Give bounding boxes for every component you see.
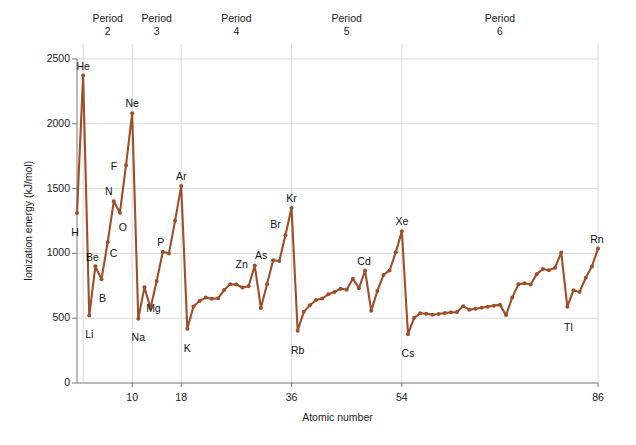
x-tick-label-86: 86 — [578, 391, 618, 403]
data-point-27 — [234, 283, 238, 287]
data-point-29 — [247, 284, 251, 288]
data-point-7 — [112, 199, 116, 203]
data-point-73 — [516, 282, 520, 286]
data-point-9 — [124, 163, 128, 167]
data-point-6 — [106, 240, 110, 244]
data-point-18 — [179, 184, 183, 188]
data-point-67 — [480, 306, 484, 310]
data-point-30 — [253, 264, 257, 268]
data-point-4 — [93, 264, 97, 268]
y-tick-label-1500: 1500 — [28, 182, 70, 194]
tick-marks — [72, 59, 598, 387]
data-point-1 — [75, 211, 79, 215]
data-point-19 — [185, 327, 189, 331]
data-point-16 — [167, 251, 171, 255]
data-point-47 — [357, 286, 361, 290]
x-tick-label-18: 18 — [161, 391, 201, 403]
annotation-Xe: Xe — [394, 215, 410, 227]
data-point-2 — [81, 74, 85, 78]
plot-area — [0, 0, 636, 445]
data-point-74 — [522, 281, 526, 285]
data-point-61 — [443, 311, 447, 315]
data-point-83 — [578, 290, 582, 294]
annotation-O: O — [115, 221, 131, 233]
data-point-31 — [259, 306, 263, 310]
data-point-65 — [467, 308, 471, 312]
data-point-76 — [535, 272, 539, 276]
data-point-51 — [381, 273, 385, 277]
annotation-As: As — [253, 249, 269, 261]
annotation-B: B — [95, 292, 111, 304]
data-point-64 — [461, 304, 465, 308]
data-point-44 — [339, 287, 343, 291]
x-axis-label: Atomic number — [0, 411, 636, 423]
annotation-Mg: Mg — [145, 302, 161, 314]
data-point-26 — [228, 282, 232, 286]
data-point-32 — [265, 282, 269, 286]
annotation-C: C — [106, 247, 122, 259]
data-point-5 — [100, 277, 104, 281]
data-point-36 — [290, 206, 294, 210]
data-point-14 — [155, 279, 159, 283]
data-point-60 — [437, 312, 441, 316]
data-point-71 — [504, 313, 508, 317]
annotation-Na: Na — [130, 331, 146, 343]
x-tick-label-36: 36 — [272, 391, 312, 403]
y-tick-label-1000: 1000 — [28, 246, 70, 258]
y-tick-label-2000: 2000 — [28, 117, 70, 129]
annotation-Ar: Ar — [173, 170, 189, 182]
data-point-25 — [222, 288, 226, 292]
annotation-Li: Li — [81, 328, 97, 340]
data-point-45 — [345, 288, 349, 292]
y-tick-label-500: 500 — [28, 311, 70, 323]
data-point-55 — [406, 332, 410, 336]
data-point-68 — [486, 305, 490, 309]
data-point-20 — [191, 305, 195, 309]
annotation-Be: Be — [84, 251, 100, 263]
data-point-69 — [492, 304, 496, 308]
x-tick-label-10: 10 — [112, 391, 152, 403]
period-separator-lines — [83, 44, 598, 383]
annotation-Ne: Ne — [124, 97, 140, 109]
annotation-Zn: Zn — [234, 258, 250, 270]
data-point-22 — [204, 296, 208, 300]
data-point-48 — [363, 269, 367, 273]
data-point-38 — [302, 310, 306, 314]
ionization-energy-chart: Period 2Period 3Period 4Period 5Period 6… — [0, 0, 636, 445]
data-line — [77, 76, 598, 335]
annotation-Cd: Cd — [356, 255, 372, 267]
gridlines — [77, 59, 598, 318]
data-point-39 — [308, 303, 312, 307]
data-point-86 — [596, 247, 600, 251]
data-point-72 — [510, 296, 514, 300]
annotation-K: K — [179, 342, 195, 354]
annotation-Cs: Cs — [400, 347, 416, 359]
data-point-81 — [565, 305, 569, 309]
data-point-54 — [400, 229, 404, 233]
y-tick-label-2500: 2500 — [28, 52, 70, 64]
data-point-35 — [283, 233, 287, 237]
data-point-11 — [136, 317, 140, 321]
data-point-17 — [173, 219, 177, 223]
data-point-21 — [198, 299, 202, 303]
annotation-Rn: Rn — [589, 233, 605, 245]
data-point-84 — [584, 276, 588, 280]
data-point-56 — [412, 316, 416, 320]
data-point-37 — [296, 329, 300, 333]
annotation-Kr: Kr — [284, 192, 300, 204]
x-tick-label-54: 54 — [382, 391, 422, 403]
data-point-10 — [130, 111, 134, 115]
data-point-15 — [161, 250, 165, 254]
data-point-33 — [271, 258, 275, 262]
data-point-70 — [498, 303, 502, 307]
data-point-50 — [375, 289, 379, 293]
data-point-59 — [431, 313, 435, 317]
annotation-Rb: Rb — [290, 344, 306, 356]
data-point-66 — [473, 307, 477, 311]
data-point-53 — [394, 250, 398, 254]
annotation-He: He — [75, 60, 91, 72]
data-point-82 — [571, 288, 575, 292]
data-point-43 — [332, 290, 336, 294]
data-point-63 — [455, 310, 459, 314]
data-point-77 — [541, 267, 545, 271]
